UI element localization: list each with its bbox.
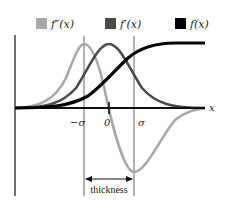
function-curve xyxy=(15,43,205,108)
tick-label-minus-sigma: −σ xyxy=(70,117,86,128)
tick-label-sigma: σ xyxy=(138,117,146,128)
legend-swatch-second-derivative xyxy=(36,18,47,29)
x-axis-label: x xyxy=(209,102,215,113)
tick-label-zero: 0 xyxy=(104,117,111,128)
legend-label-function: f(x) xyxy=(189,18,209,31)
edge-profile-diagram: f″(x) f′(x) f(x) x −σ 0 σ thickness xyxy=(0,0,225,207)
legend-label-first-derivative: f′(x) xyxy=(119,18,141,31)
legend-swatch-function xyxy=(175,18,186,29)
thickness-dimension: thickness xyxy=(85,176,133,195)
arrowhead-right-icon xyxy=(126,176,133,182)
legend-swatch-first-derivative xyxy=(105,18,116,29)
arrowhead-left-icon xyxy=(85,176,92,182)
legend: f″(x) f′(x) f(x) xyxy=(36,18,209,31)
thickness-label: thickness xyxy=(90,184,127,195)
legend-label-second-derivative: f″(x) xyxy=(50,18,74,31)
